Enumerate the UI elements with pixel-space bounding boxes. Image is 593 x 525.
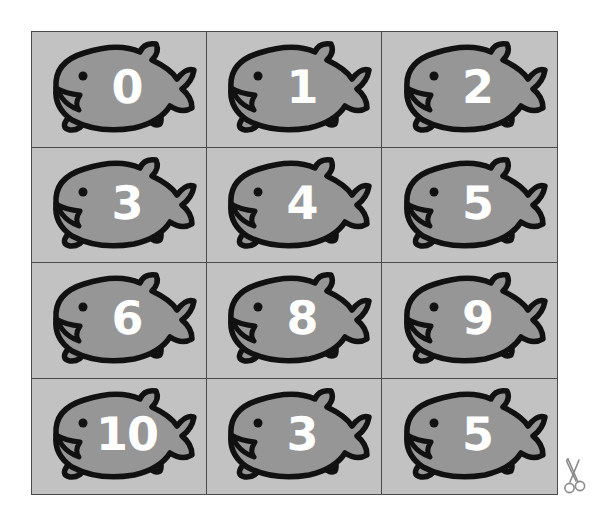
fish-icon bbox=[40, 267, 198, 373]
fish-icon bbox=[391, 36, 549, 142]
worksheet-page: 0 1 bbox=[0, 0, 593, 525]
fish-card[interactable]: 6 bbox=[32, 263, 207, 379]
scissors-icon bbox=[561, 455, 589, 499]
fish-card[interactable]: 8 bbox=[207, 263, 382, 379]
fish-icon bbox=[40, 36, 198, 142]
fish-card-grid: 0 1 bbox=[31, 31, 558, 495]
fish-icon bbox=[40, 383, 198, 489]
fish-icon bbox=[215, 383, 373, 489]
fish-card[interactable]: 9 bbox=[382, 263, 557, 379]
fish-icon bbox=[391, 152, 549, 258]
fish-card[interactable]: 2 bbox=[382, 32, 557, 148]
fish-icon bbox=[40, 152, 198, 258]
fish-icon bbox=[215, 36, 373, 142]
fish-card[interactable]: 5 bbox=[382, 379, 557, 495]
fish-card[interactable]: 3 bbox=[32, 148, 207, 264]
fish-card[interactable]: 3 bbox=[207, 379, 382, 495]
fish-card[interactable]: 5 bbox=[382, 148, 557, 264]
fish-card[interactable]: 4 bbox=[207, 148, 382, 264]
fish-icon bbox=[391, 383, 549, 489]
fish-icon bbox=[215, 152, 373, 258]
fish-icon bbox=[391, 267, 549, 373]
fish-icon bbox=[215, 267, 373, 373]
fish-card[interactable]: 0 bbox=[32, 32, 207, 148]
fish-card[interactable]: 1 bbox=[207, 32, 382, 148]
fish-card[interactable]: 10 bbox=[32, 379, 207, 495]
